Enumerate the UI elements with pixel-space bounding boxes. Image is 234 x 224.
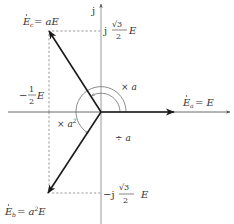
svg-text:j: j [103,25,107,36]
svg-text:√3: √3 [112,20,122,29]
svg-text:1: 1 [29,85,34,94]
mult-a-arc [92,93,120,112]
tick-bottom-imag: −j √3 2 E [103,183,149,205]
label-Eb: E b = a2E [4,204,46,218]
svg-text:√3: √3 [119,183,129,192]
imag-axis-label: j [91,5,95,16]
svg-text:= aE: = aE [34,16,60,27]
tick-top-imag: j √3 2 E [103,20,137,41]
phasor-diagram: j × a ÷ a × a2 E c = aE E a = E E b = a2… [0,0,234,224]
svg-text:E: E [140,189,149,200]
svg-text:−j: −j [103,189,114,200]
svg-text:2: 2 [123,196,128,205]
tick-left-real: − 1 2 E [19,85,45,106]
div-a-label: ÷ a [115,133,131,143]
label-Ec: E c = aE [22,14,60,28]
svg-text:2: 2 [116,32,121,41]
mult-a2-label: × a2 [57,117,77,129]
mult-a2-base: × a [57,119,73,129]
phasor-Eb [48,112,101,193]
svg-text:−: − [19,90,27,101]
svg-text:= a2E: = a2E [17,205,46,217]
phasor-Ec [49,31,101,112]
label-Ea: E a = E [182,95,215,109]
svg-text:E: E [128,25,137,36]
svg-text:= E: = E [195,97,215,108]
svg-text:E: E [36,90,45,101]
mult-a-label: × a [121,82,137,92]
svg-text:2: 2 [29,97,34,106]
svg-text:a: a [190,102,194,109]
mult-a2-sup: 2 [72,117,77,124]
svg-text:b: b [12,211,16,218]
